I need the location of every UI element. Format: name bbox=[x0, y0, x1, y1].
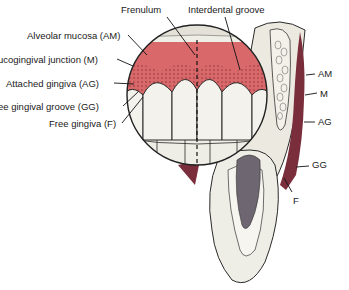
label-frenulum: Frenulum bbox=[121, 4, 161, 15]
label-m: M bbox=[320, 88, 328, 99]
label-attached-gingiva: Attached gingiva (AG) bbox=[6, 78, 99, 89]
label-am: AM bbox=[318, 68, 332, 79]
label-mucogingival-junction: ucogingival junction (M) bbox=[0, 54, 98, 65]
label-free-gingival-groove: ee gingival groove (GG) bbox=[0, 101, 99, 112]
label-f: F bbox=[293, 195, 299, 206]
label-alveolar-mucosa: Alveolar mucosa (AM) bbox=[27, 30, 120, 41]
label-gg: GG bbox=[312, 159, 327, 170]
gingiva-diagram bbox=[0, 0, 349, 290]
label-ag: AG bbox=[318, 116, 332, 127]
label-interdental-groove: Interdental groove bbox=[188, 4, 265, 15]
label-free-gingiva: Free gingiva (F) bbox=[49, 118, 116, 129]
